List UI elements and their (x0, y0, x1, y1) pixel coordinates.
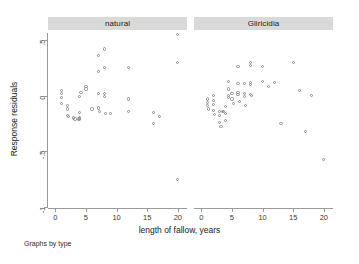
x-tick-mark (178, 209, 179, 212)
data-point (84, 87, 87, 90)
data-point (127, 110, 130, 113)
data-point (67, 115, 70, 118)
data-point (261, 65, 264, 68)
x-axis-title: length of fallow, years (0, 225, 359, 235)
data-point (273, 81, 276, 84)
y-tick-mark (44, 40, 47, 41)
data-point (224, 119, 227, 122)
x-tick-label: 20 (168, 213, 188, 222)
data-point (127, 66, 130, 69)
data-point (60, 92, 63, 95)
data-point (176, 178, 179, 181)
data-point (158, 115, 161, 118)
data-point (238, 100, 241, 103)
x-tick-mark (86, 209, 87, 212)
data-point (261, 80, 264, 83)
data-point (127, 97, 130, 100)
data-point (103, 66, 106, 69)
data-point (243, 95, 246, 98)
data-point (236, 93, 239, 96)
data-point (103, 95, 106, 98)
data-point (310, 94, 313, 97)
y-tick-mark (44, 151, 47, 152)
plot-panel-natural (48, 33, 187, 207)
data-point (97, 70, 100, 73)
x-tick-label: 15 (283, 213, 303, 222)
data-point (322, 158, 325, 161)
data-point (60, 102, 63, 105)
data-point (104, 112, 107, 115)
data-point (207, 107, 210, 110)
data-point (212, 109, 215, 112)
data-point (219, 125, 222, 128)
data-point (212, 99, 215, 102)
scatter-plot-figure: natural Gliricidia .50-.5-1 Response res… (0, 0, 359, 264)
data-point (152, 122, 155, 125)
plot-panel-gliricidia (194, 33, 333, 207)
data-point (218, 121, 221, 124)
data-point (267, 85, 270, 88)
x-tick-label: 0 (45, 213, 65, 222)
data-point (224, 105, 227, 108)
data-point (103, 47, 106, 50)
panel-title-natural: natural (48, 17, 187, 30)
data-point (66, 107, 69, 110)
data-point (298, 89, 301, 92)
data-point (176, 61, 179, 64)
data-point (244, 104, 247, 107)
x-tick-mark (201, 209, 202, 212)
x-tick-mark (147, 209, 148, 212)
data-point (98, 110, 101, 113)
data-point (230, 97, 233, 100)
data-point (78, 111, 81, 114)
x-tick-label: 15 (137, 213, 157, 222)
data-point (224, 112, 227, 115)
data-point (279, 122, 282, 125)
data-point (236, 65, 239, 68)
x-tick-mark (232, 209, 233, 212)
data-point (232, 102, 235, 105)
data-point (109, 112, 112, 115)
data-point (152, 111, 155, 114)
x-tick-label: 20 (314, 213, 334, 222)
y-tick-mark (44, 96, 47, 97)
x-tick-label: 5 (222, 213, 242, 222)
x-tick-mark (117, 209, 118, 212)
data-point (304, 130, 307, 133)
data-point (250, 94, 253, 97)
data-point (218, 114, 221, 117)
data-point (292, 61, 295, 64)
data-point (249, 83, 252, 86)
y-tick-label: 0 (38, 95, 47, 111)
data-point (90, 107, 93, 110)
x-tick-label: 5 (76, 213, 96, 222)
y-axis-title: Response residuals (9, 59, 19, 179)
data-point (249, 64, 252, 67)
data-point (97, 92, 100, 95)
data-point (78, 95, 81, 98)
data-point (212, 103, 215, 106)
x-tick-mark (293, 209, 294, 212)
data-point (243, 82, 246, 85)
data-point (60, 96, 63, 99)
data-point (236, 82, 239, 85)
data-point (230, 92, 233, 95)
data-point (212, 94, 215, 97)
x-tick-label: 10 (107, 213, 127, 222)
data-point (227, 87, 230, 90)
x-tick-label: 0 (191, 213, 211, 222)
x-tick-label: 10 (253, 213, 273, 222)
y-tick-label: .5 (38, 40, 47, 56)
graph-note: Graphs by type (24, 240, 71, 247)
data-point (227, 80, 230, 83)
panel-title-gliricidia: Gliricidia (194, 17, 333, 30)
data-point (213, 113, 216, 116)
data-point (97, 54, 100, 57)
data-point (176, 33, 179, 36)
y-tick-mark (44, 207, 47, 208)
x-tick-mark (55, 209, 56, 212)
x-tick-mark (324, 209, 325, 212)
data-point (79, 91, 82, 94)
y-tick-label: -.5 (38, 151, 47, 167)
x-tick-mark (263, 209, 264, 212)
